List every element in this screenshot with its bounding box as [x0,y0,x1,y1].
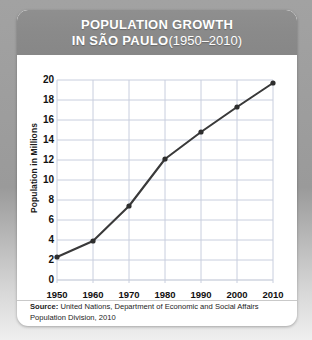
source-label: Source: [30,302,58,311]
chart-plot-area: Population in Millions 20 18 16 14 12 10… [17,55,297,300]
source-note: Source: United Nations, Department of Ec… [17,300,297,326]
data-point [54,254,59,259]
data-point [198,129,203,134]
grid-lines [57,80,273,283]
data-point [234,104,239,109]
chart-title-line-2: IN SÃO PAULO(1950–2010) [72,33,242,49]
page-background: POPULATION GROWTH IN SÃO PAULO(1950–2010… [0,0,312,340]
source-text: Source: United Nations, Department of Ec… [30,302,285,323]
data-point [90,238,95,243]
data-point [126,203,131,208]
data-point [162,156,167,161]
chart-title-bar: POPULATION GROWTH IN SÃO PAULO(1950–2010… [17,10,297,55]
chart-title-line-1: POPULATION GROWTH [81,17,233,33]
data-point [270,80,275,85]
chart-card: POPULATION GROWTH IN SÃO PAULO(1950–2010… [17,10,297,326]
chart-title-range: (1950–2010) [168,33,242,48]
source-body: United Nations, Department of Economic a… [30,302,259,322]
chart-title-subject: IN SÃO PAULO [72,33,169,48]
chart-svg [17,55,297,300]
